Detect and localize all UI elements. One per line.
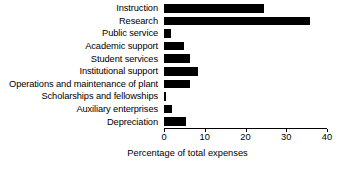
category-label: Public service xyxy=(102,28,158,38)
category-label: Institutional support xyxy=(79,66,158,76)
bar xyxy=(164,54,190,63)
plot-area xyxy=(164,2,327,128)
x-tick-label: 0 xyxy=(153,132,175,143)
bar xyxy=(164,17,310,26)
bar xyxy=(164,42,184,51)
x-tick-label: 20 xyxy=(235,132,257,143)
bar xyxy=(164,117,186,126)
bar-row xyxy=(164,27,327,40)
category-label-row: Depreciation xyxy=(0,115,161,128)
bar-row xyxy=(164,52,327,65)
x-tick-label: 10 xyxy=(194,132,216,143)
category-label: Auxiliary enterprises xyxy=(76,104,158,114)
bar-row xyxy=(164,2,327,15)
category-label-row: Academic support xyxy=(0,40,161,53)
bar-row xyxy=(164,115,327,128)
category-label: Academic support xyxy=(85,41,158,51)
category-label: Student services xyxy=(91,54,158,64)
bar xyxy=(164,4,264,13)
category-axis-labels: Instruction Research Public service Acad… xyxy=(0,2,161,128)
category-label-row: Institutional support xyxy=(0,65,161,78)
category-label-row: Student services xyxy=(0,52,161,65)
x-axis-title: Percentage of total expenses xyxy=(0,148,331,158)
bar-row xyxy=(164,78,327,91)
x-tick-label: 30 xyxy=(275,132,297,143)
category-label-row: Auxiliary enterprises xyxy=(0,103,161,116)
category-label: Research xyxy=(119,16,158,26)
bar xyxy=(164,29,171,38)
category-label: Scholarships and fellowships xyxy=(41,91,158,101)
bar-row xyxy=(164,103,327,116)
category-label-row: Scholarships and fellowships xyxy=(0,90,161,103)
bar-row xyxy=(164,40,327,53)
category-label: Operations and maintenance of plant xyxy=(9,79,158,89)
category-label-row: Public service xyxy=(0,27,161,40)
bar xyxy=(164,92,166,101)
bar-row xyxy=(164,90,327,103)
bar xyxy=(164,105,172,114)
category-label-row: Operations and maintenance of plant xyxy=(0,78,161,91)
bar-row xyxy=(164,15,327,28)
bar-row xyxy=(164,65,327,78)
category-label: Instruction xyxy=(116,3,158,13)
x-tick-label: 40 xyxy=(316,132,337,143)
category-label-row: Research xyxy=(0,15,161,28)
bar xyxy=(164,67,198,76)
bar xyxy=(164,80,190,89)
category-label: Depreciation xyxy=(107,117,158,127)
category-label-row: Instruction xyxy=(0,2,161,15)
